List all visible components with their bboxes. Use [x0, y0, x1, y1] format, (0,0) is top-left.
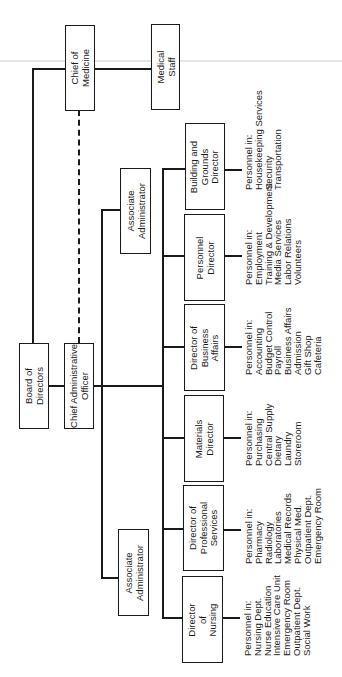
chief-administrative-officer-box: Chief Administrative Officer — [64, 343, 94, 429]
bus-professional — [162, 528, 184, 530]
chief-of-medicine-label: Chief of Medicine — [70, 49, 91, 87]
assoc-admin-vertical — [101, 209, 103, 579]
stub-business — [224, 346, 242, 348]
stub-nursing — [222, 617, 240, 619]
board-to-chief-top — [32, 68, 66, 70]
materials-director-label: Materials Director — [194, 419, 215, 458]
chief-of-medicine-box: Chief of Medicine — [65, 25, 95, 111]
bus-building — [162, 168, 185, 170]
associate-administrator-box-2: Associate Administrator — [118, 529, 149, 616]
list-item: Emergency Room — [313, 488, 323, 564]
professional-personnel-list: Personnel in:PharmacyRadiologyLaboratori… — [244, 488, 322, 564]
professional-services-label: Director of Professional Services — [188, 502, 220, 554]
directors-bus — [162, 168, 164, 618]
board-of-directors-label: Board of Directors — [24, 367, 45, 405]
building-personnel-list: Personnel in:Housekeeping ServicesSecuri… — [244, 90, 283, 190]
list-item: Social Work — [302, 575, 312, 656]
cao-to-bus-connector — [93, 385, 163, 387]
chief-to-medstaff-connector — [94, 68, 152, 70]
board-of-directors-box: Board of Directors — [19, 343, 49, 429]
bus-personnel — [162, 255, 185, 257]
bus-business — [162, 346, 185, 348]
professional-services-director-box: Director of Professional Services — [183, 485, 224, 571]
personnel-director-label: Personnel Director — [194, 236, 215, 279]
nursing-director-box: Director of Nursing — [182, 576, 223, 663]
business-affairs-label: Director of Business Affairs — [189, 326, 221, 370]
list-item: Volunteers — [293, 183, 303, 285]
assoc-admin-1-connector — [101, 209, 121, 211]
list-item: Cafeteria — [313, 308, 323, 375]
personnel-director-box: Personnel Director — [184, 214, 225, 301]
cao-label: Chief Administrative Officer — [69, 344, 90, 428]
bus-nursing — [162, 617, 183, 619]
business-affairs-director-box: Director of Business Affairs — [184, 304, 225, 391]
materials-director-box: Materials Director — [184, 395, 224, 482]
list-item: Transportation — [273, 90, 283, 190]
board-to-chief-connector — [32, 68, 34, 344]
medical-staff-label: Medical Staff — [155, 51, 176, 84]
associate-administrator-label-1: Associate Administrator — [125, 183, 146, 239]
nursing-director-label: Director of Nursing — [187, 603, 219, 636]
medical-staff-box: Medical Staff — [151, 24, 180, 110]
nursing-personnel-list: Personnel in:Nursing Dept.Nurse Educatio… — [243, 575, 312, 656]
business-personnel-list: Personnel in:AccountingBudget ControlPay… — [244, 308, 322, 375]
assoc-admin-2-connector — [101, 577, 119, 579]
bus-materials — [162, 437, 185, 439]
building-grounds-director-box: Building and Grounds Director — [185, 123, 225, 210]
building-grounds-label: Building and Grounds Director — [189, 140, 221, 192]
stub-personnel — [224, 255, 242, 257]
stub-building — [224, 169, 242, 171]
chief-to-cao-dashed — [78, 110, 80, 343]
stub-professional — [223, 529, 241, 531]
associate-administrator-label-2: Associate Administrator — [123, 545, 144, 601]
associate-administrator-box-1: Associate Administrator — [120, 168, 151, 254]
board-to-cao-connector — [48, 385, 65, 387]
stub-materials — [223, 437, 241, 439]
personnel-personnel-list: Personnel in:EmploymentTraining & Develo… — [244, 183, 303, 285]
list-item: Storeroom — [293, 404, 303, 466]
materials-personnel-list: Personnel in:PurchasingCentral SupplyDie… — [244, 404, 303, 466]
